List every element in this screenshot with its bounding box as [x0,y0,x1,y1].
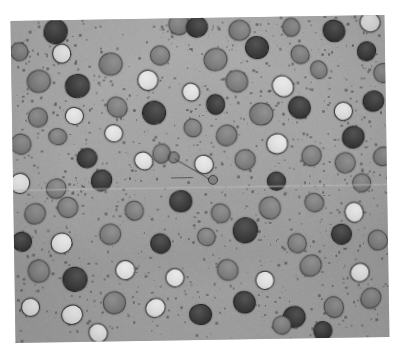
speckle [279,297,281,299]
speckle [35,231,37,233]
speckle [44,201,45,202]
speckle [156,178,159,181]
speckle [44,53,46,55]
speckle [70,134,71,135]
speckle [230,164,231,165]
speckle [37,53,39,55]
speckle [41,17,44,20]
speckle [22,69,25,72]
speckle [178,233,180,235]
speckle [243,60,244,61]
speckle [188,238,190,240]
speckle [291,146,293,148]
speckle [210,72,211,73]
speckle [80,264,81,265]
speckle [284,262,287,265]
speckle [197,291,199,293]
speckle [261,139,263,141]
speckle [360,86,363,89]
speckle [91,107,93,109]
speckle [334,138,336,140]
speckle [382,213,383,214]
speckle [145,41,148,44]
speckle [386,253,388,255]
speckle [91,241,93,243]
speckle [297,139,298,140]
speckle [323,170,325,172]
speckle [282,123,285,126]
speckle [99,26,101,28]
speckle [118,201,119,202]
speckle [111,274,112,275]
speckle [335,254,337,256]
speckle [115,93,116,94]
speckle [257,218,260,221]
speckle [206,336,207,337]
speckle [65,227,67,229]
speckle [98,81,101,84]
speckle [342,277,344,279]
speckle [283,248,286,251]
speckle [150,257,152,259]
speckle [109,326,110,327]
speckle [324,245,325,246]
speckle [342,281,344,283]
speckle [12,251,14,253]
speckle [374,308,376,310]
speckle [102,162,104,164]
speckle [116,119,119,122]
speckle [29,31,31,33]
speckle [347,293,349,295]
speckle [70,331,72,333]
speckle [224,112,225,113]
speckle [256,145,258,147]
speckle [277,239,278,240]
speckle [296,278,299,281]
speckle [354,16,357,19]
speckle [201,53,203,55]
speckle [375,143,378,146]
speckle [99,128,101,130]
speckle [200,141,202,143]
speckle [329,161,331,163]
speckle [363,77,365,79]
speckle [107,274,110,277]
speckle [27,194,29,196]
speckle [93,103,94,104]
speckle [99,76,100,77]
speckle [156,324,158,326]
speckle [102,100,104,102]
speckle [25,39,28,42]
speckle [230,218,232,220]
speckle [76,38,77,39]
speckle [10,216,11,217]
speckle [86,139,88,141]
speckle [386,177,388,179]
speckle [17,66,19,68]
speckle [237,175,240,178]
speckle [357,300,359,302]
speckle [273,109,275,111]
speckle [66,39,69,42]
speckle [361,64,363,66]
speckle [74,62,77,65]
speckle [123,142,126,145]
speckle [88,262,90,264]
speckle [119,215,121,217]
particle-dark [168,190,192,213]
speckle [368,172,369,173]
speckle [347,23,350,26]
speckle [79,34,81,36]
speckle [150,218,153,221]
speckle [22,230,23,231]
speckle [256,23,259,26]
speckle [236,102,239,105]
speckle [268,65,270,67]
speckle [148,96,149,97]
speckle [292,138,294,140]
matrix-background [10,15,389,343]
speckle [88,108,91,111]
speckle [158,266,160,268]
speckle [167,215,169,217]
speckle [247,188,249,190]
